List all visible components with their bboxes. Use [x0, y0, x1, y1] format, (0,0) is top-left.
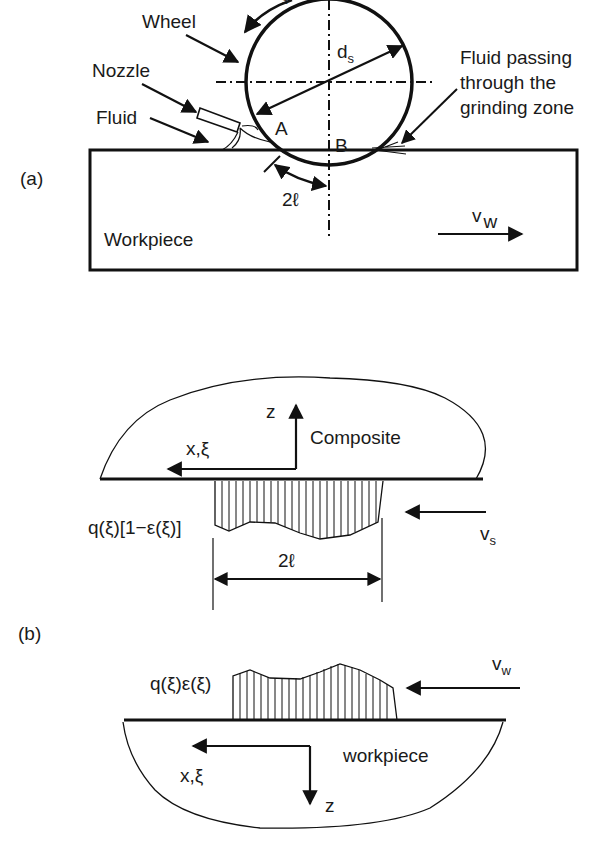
workpiece-label: Workpiece: [104, 229, 193, 250]
nozzle-label: Nozzle: [92, 60, 150, 81]
contact-length-label: 2ℓ: [282, 189, 299, 210]
composite-flux-hatch: [215, 481, 383, 539]
nozzle-pointer-arrow: [142, 84, 196, 112]
fluid-passing-label-3: grinding zone: [460, 97, 574, 118]
point-a-label: A: [275, 118, 288, 139]
workpiece-flux-label: q(ξ)ε(ξ): [150, 673, 211, 694]
contact-length-arrow: [275, 165, 326, 186]
fluid-passing-label-2: through the: [460, 72, 556, 93]
fluid-passing-label-1: Fluid passing: [460, 47, 572, 68]
workpiece-velocity-label-b: vw: [492, 653, 512, 678]
wheel-velocity-partial-label: s: [282, 0, 289, 7]
wheel-velocity-label: vs: [480, 523, 497, 548]
panel-a-label: (a): [20, 168, 43, 189]
fluid-exit-streaks: [372, 142, 406, 154]
workpiece-z-label: z: [325, 795, 335, 816]
panel-b-composite: z x,ξ Composite q(ξ)[1−ε(ξ)] vs: [88, 377, 497, 610]
panel-b-label: (b): [18, 623, 41, 644]
workpiece-label-b: workpiece: [342, 745, 429, 766]
contact-tick: [264, 156, 280, 172]
diameter-label: ds: [337, 41, 355, 66]
workpiece-velocity-label: vw: [472, 205, 498, 232]
wheel-label: Wheel: [142, 11, 196, 32]
wheel-pointer-arrow: [186, 35, 238, 62]
grinding-diagram: ds s Wheel Nozzle Fluid A B Fluid passin…: [0, 0, 590, 843]
panel-b-workpiece: q(ξ)ε(ξ) vw x,ξ z workpiece: [123, 653, 520, 828]
fluid-pointer-arrow: [150, 118, 208, 142]
point-b-label: B: [335, 135, 348, 156]
composite-flux-label: q(ξ)[1−ε(ξ)]: [88, 517, 182, 538]
fluid-label: Fluid: [96, 107, 137, 128]
panel-a: ds s Wheel Nozzle Fluid A B Fluid passin…: [20, 0, 577, 270]
composite-outline: [100, 377, 485, 479]
workpiece-x-label: x,ξ: [180, 765, 204, 786]
workpiece-block: [90, 150, 577, 270]
nozzle: [197, 108, 240, 132]
composite-x-label: x,ξ: [186, 438, 210, 459]
composite-z-label: z: [266, 401, 276, 422]
composite-contact-length-label: 2ℓ: [278, 550, 295, 571]
composite-label: Composite: [310, 427, 401, 448]
workpiece-flux-hatch: [233, 664, 397, 720]
